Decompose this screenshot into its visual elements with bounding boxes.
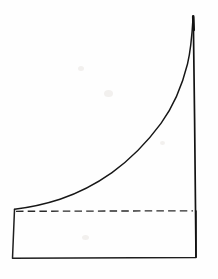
figure-canvas: Exponentially rising curve over a rectan… [0,0,218,279]
peak-tip [193,16,194,30]
paper-background [0,0,218,279]
diagram-svg [0,0,218,279]
